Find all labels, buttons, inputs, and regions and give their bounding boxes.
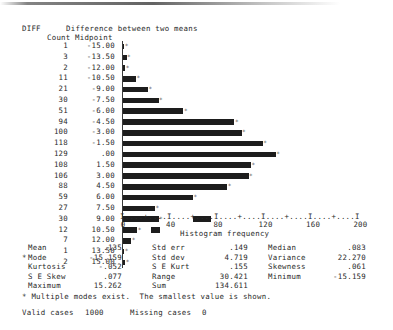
statistic-label: Variance [268, 253, 306, 263]
bin-midpoint: -13.50 [70, 52, 115, 63]
statistic-label: Std err [152, 243, 185, 253]
bin-midpoint: -10.50 [70, 73, 115, 84]
statistic-label: Maximum [28, 281, 61, 291]
bin-count: 2 [22, 63, 68, 74]
histogram-row: 1-15.00* [0, 41, 393, 52]
histogram-bar [123, 119, 234, 125]
bar-end-marker: * [242, 128, 246, 136]
histogram-bar [123, 87, 148, 93]
bin-midpoint: 4.50 [70, 181, 115, 192]
statistic-value: .155 [196, 262, 248, 272]
x-tick-label: 160 [306, 220, 320, 229]
statistic-label: Sum [152, 281, 166, 291]
bin-midpoint: -1.50 [70, 138, 115, 149]
bar-end-marker: * [138, 226, 142, 234]
bar-end-marker: * [251, 161, 255, 169]
bar-end-marker: * [137, 74, 141, 82]
statistics-row: Kurtosis-.052S E Kurt.155Skewness.061 [0, 262, 393, 272]
histogram-bar [123, 108, 183, 114]
bar-end-marker: * [263, 139, 267, 147]
bar-end-marker: * [148, 85, 152, 93]
spss-frequency-output: DIFF Difference between two means Count … [0, 0, 393, 330]
histogram-bar [123, 141, 263, 147]
statistic-value: -15.159 [310, 272, 366, 282]
statistic-value: 30.421 [196, 272, 248, 282]
bar-end-marker: * [156, 204, 160, 212]
histogram-bar [123, 184, 227, 190]
histogram-bar [123, 195, 193, 201]
x-tick-label: 0 [121, 220, 126, 229]
statistic-value: .061 [310, 262, 366, 272]
statistic-label: Mode [28, 253, 47, 263]
histogram-row: 30-7.50* [0, 95, 393, 106]
histogram-row: 11-10.50* [0, 73, 393, 84]
bin-midpoint: -7.50 [70, 95, 115, 106]
statistic-label: Minimum [268, 272, 301, 282]
bin-count: 59 [22, 192, 68, 203]
statistics-row: Mean.135Std err.149Median.083 [0, 243, 393, 253]
bin-midpoint: -9.00 [70, 84, 115, 95]
bar-end-marker: * [184, 107, 188, 115]
multiple-modes-footnote: * Multiple modes exist. The smallest val… [22, 292, 271, 301]
statistics-row: S E Skew.077Range30.421Minimum-15.159 [0, 272, 393, 282]
histogram-row: 2-12.00* [0, 63, 393, 74]
statistic-label: Std dev [152, 253, 185, 263]
statistic-label: Range [152, 272, 176, 282]
bar-end-marker: * [125, 42, 129, 50]
histogram-row: 884.50* [0, 181, 393, 192]
bin-count: 27 [22, 203, 68, 214]
statistics-row: Maximum15.262Sum134.611 [0, 281, 393, 291]
histogram-row: 94-4.50* [0, 117, 393, 128]
histogram-bar [123, 76, 136, 82]
scan-artifact [151, 227, 160, 233]
missing-cases-label: Missing cases [130, 308, 191, 317]
histogram-bar [123, 130, 242, 136]
bin-count: 106 [22, 171, 68, 182]
page-top-rule [0, 2, 340, 5]
statistic-label: Mean [28, 243, 47, 253]
x-tick-label: 120 [259, 220, 273, 229]
bin-midpoint: 3.00 [70, 171, 115, 182]
statistic-value: 15.262 [70, 281, 122, 291]
valid-cases-label: Valid cases [22, 308, 74, 317]
bin-midpoint: -4.50 [70, 117, 115, 128]
bin-count: 108 [22, 160, 68, 171]
histogram-row: 1081.50* [0, 160, 393, 171]
statistic-value: 134.611 [196, 281, 248, 291]
histogram-bar [123, 55, 127, 60]
bar-end-marker: * [193, 193, 197, 201]
bin-midpoint: 1.50 [70, 160, 115, 171]
bin-count: 21 [22, 84, 68, 95]
bin-midpoint: .00 [70, 149, 115, 160]
variable-label: Difference between two means [66, 24, 198, 33]
x-tick-label: 200 [353, 220, 367, 229]
bin-count: 30 [22, 214, 68, 225]
x-axis-ruler: I....+....I....+....I....+....I....+....… [120, 212, 360, 221]
statistic-value: -.052 [70, 262, 122, 272]
histogram-row: 51-6.00* [0, 106, 393, 117]
bin-midpoint: -12.00 [70, 63, 115, 74]
histogram-row: 596.00* [0, 192, 393, 203]
bin-count: 118 [22, 138, 68, 149]
bin-count: 1 [22, 41, 68, 52]
statistic-label: Kurtosis [28, 262, 66, 272]
x-axis-title: Histogram frequency [180, 229, 269, 238]
bin-midpoint: -15.00 [70, 41, 115, 52]
bin-count: 88 [22, 181, 68, 192]
histogram-row: 129.00* [0, 149, 393, 160]
statistic-value: .083 [310, 243, 366, 253]
x-tick-label: 40 [166, 220, 175, 229]
bar-end-marker: * [127, 53, 131, 61]
variable-name: DIFF [22, 24, 41, 33]
statistic-value: .135 [70, 243, 122, 253]
bin-midpoint: 6.00 [70, 192, 115, 203]
statistic-label: S E Kurt [152, 262, 190, 272]
bar-end-marker: * [235, 118, 239, 126]
bin-count: 12 [22, 225, 68, 236]
histogram-bar [123, 173, 249, 179]
bar-end-marker: * [228, 182, 232, 190]
histogram-row: 1063.00* [0, 171, 393, 182]
histogram-row: 100-3.00* [0, 127, 393, 138]
bin-count: 51 [22, 106, 68, 117]
histogram-row: 21-9.00* [0, 84, 393, 95]
